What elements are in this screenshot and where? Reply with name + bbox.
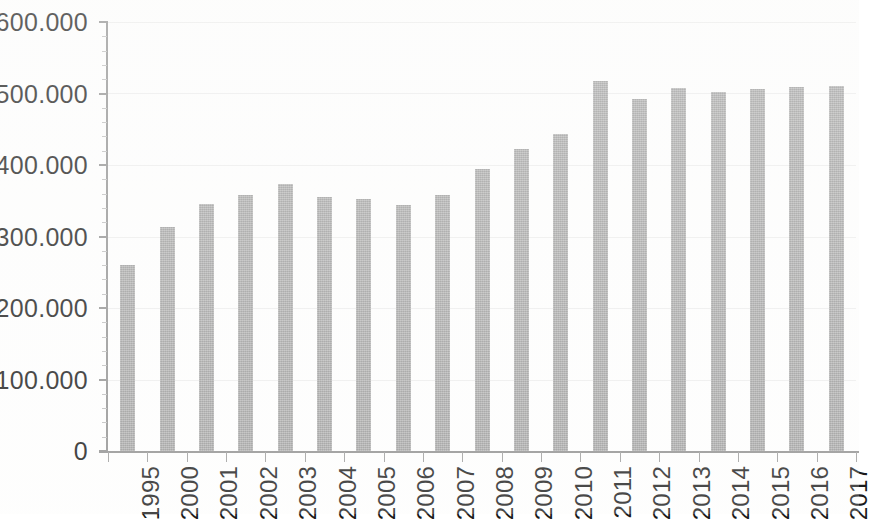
x-axis-tick-label: 2002 xyxy=(255,466,283,520)
x-axis-tick-label: 2004 xyxy=(334,466,362,520)
x-axis-tick-label: 2011 xyxy=(609,466,637,518)
x-axis-tick-label: 2007 xyxy=(452,466,480,520)
x-axis-tick-label: 2003 xyxy=(294,466,322,520)
x-axis-tick-label: 1995 xyxy=(137,466,165,520)
x-axis-tick-label: 2010 xyxy=(570,466,598,520)
x-axis-tick-label: 2012 xyxy=(648,466,676,520)
x-axis-tick-label: 2016 xyxy=(806,466,834,520)
x-axis-tick-label: 2008 xyxy=(491,466,519,520)
x-axis-tick-label: 2000 xyxy=(176,466,204,520)
x-axis-tick-label: 2009 xyxy=(530,466,558,520)
x-axis-tick-label: 2006 xyxy=(412,466,440,520)
x-axis-tick-label: 2005 xyxy=(373,466,401,520)
x-axis-tick-label: 2015 xyxy=(767,466,795,520)
x-axis-tick-label: 2001 xyxy=(215,466,243,520)
x-axis-tick-label: 2017 xyxy=(845,466,872,520)
x-axis-tick-label: 2014 xyxy=(727,466,755,520)
x-axis-tick-label: 2013 xyxy=(688,466,716,520)
